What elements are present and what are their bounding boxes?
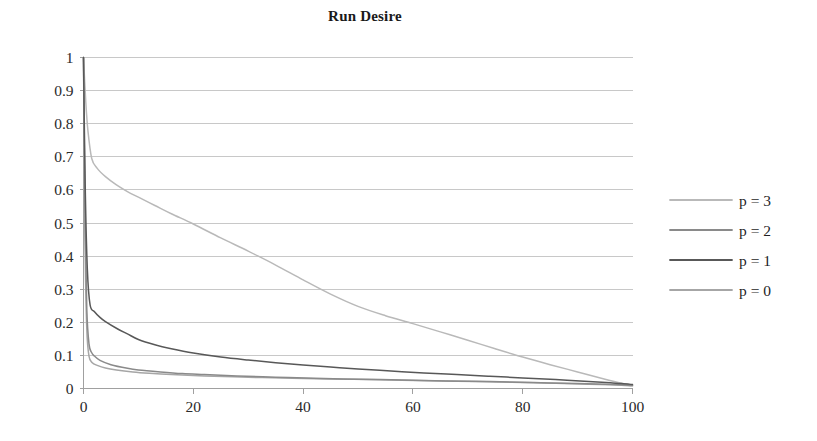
x-tick-label: 60 bbox=[405, 398, 421, 415]
y-tick-label: 0.3 bbox=[54, 281, 74, 298]
chart-container: Run Desire 00.10.20.30.40.50.60.70.80.91… bbox=[0, 0, 817, 441]
x-tick-label: 40 bbox=[295, 398, 311, 415]
gridlines-group bbox=[84, 58, 633, 356]
y-tick-label: 0.2 bbox=[54, 314, 73, 331]
legend-group: p = 3p = 2p = 1p = 0 bbox=[670, 192, 771, 299]
x-tick-labels-group: 020406080100 bbox=[80, 398, 645, 415]
y-tick-label: 0.4 bbox=[54, 248, 74, 265]
legend-label-p-0: p = 0 bbox=[739, 282, 771, 299]
y-tick-label: 0.5 bbox=[54, 215, 74, 232]
y-tick-labels-group: 00.10.20.30.40.50.60.70.80.91 bbox=[54, 49, 74, 397]
series-line-p-0 bbox=[84, 58, 633, 386]
legend-label-p-3: p = 3 bbox=[739, 192, 771, 209]
y-tick-label: 0.8 bbox=[54, 115, 74, 132]
y-tick-label: 1 bbox=[66, 49, 74, 66]
chart-plot-area: 00.10.20.30.40.50.60.70.80.91 0204060801… bbox=[0, 0, 817, 441]
legend-label-p-2: p = 2 bbox=[739, 222, 771, 239]
x-tick-label: 100 bbox=[621, 398, 645, 415]
y-tick-label: 0.6 bbox=[54, 181, 74, 198]
x-tick-label: 0 bbox=[80, 398, 88, 415]
y-tick-label: 0.1 bbox=[54, 347, 73, 364]
tick-marks-group bbox=[80, 58, 633, 394]
series-line-p-2 bbox=[84, 58, 633, 386]
series-line-p-3 bbox=[84, 58, 633, 386]
y-tick-label: 0 bbox=[66, 380, 74, 397]
y-tick-label: 0.9 bbox=[54, 82, 74, 99]
x-tick-label: 80 bbox=[515, 398, 531, 415]
x-tick-label: 20 bbox=[186, 398, 202, 415]
legend-label-p-1: p = 1 bbox=[739, 252, 771, 269]
series-group bbox=[84, 58, 633, 386]
y-tick-label: 0.7 bbox=[54, 148, 74, 165]
series-line-p-1 bbox=[84, 58, 633, 385]
